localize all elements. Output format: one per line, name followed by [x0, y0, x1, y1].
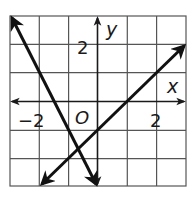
tick-label-x-neg2: −2 — [18, 110, 45, 131]
increasing-line — [42, 46, 184, 184]
origin-label: O — [75, 107, 89, 128]
y-axis-label: y — [105, 18, 118, 40]
x-axis-label: x — [166, 75, 179, 97]
coordinate-graph: y x O 2 −2 2 — [0, 0, 189, 201]
tick-label-y-2: 2 — [77, 37, 88, 58]
tick-label-x-2: 2 — [150, 110, 161, 131]
